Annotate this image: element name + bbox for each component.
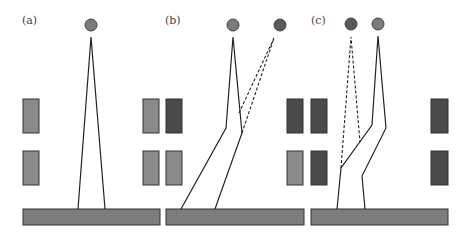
source-circle-icon-c-0	[345, 18, 357, 30]
source-circle-icon-c-1	[372, 18, 384, 30]
building-block-c-4	[431, 99, 448, 133]
building-block-a-1	[23, 151, 39, 185]
dashed-signal-path-b	[239, 38, 274, 133]
building-block-b-2	[143, 151, 159, 185]
panel-label-a: (a)	[22, 14, 37, 27]
building-block-c-5	[431, 151, 448, 185]
building-block-c-1	[311, 99, 327, 133]
building-block-a-0	[23, 99, 39, 133]
building-block-c-2	[287, 151, 303, 185]
ground-layer	[23, 209, 448, 225]
signal-paths-layer	[78, 36, 386, 209]
panel-label-c: (c)	[311, 14, 326, 27]
building-block-b-0	[143, 99, 159, 133]
diagram-canvas: (a)(b)(c)	[0, 0, 465, 235]
panel-label-b: (b)	[165, 14, 181, 27]
building-block-b-3	[166, 151, 182, 185]
ground-bar-c	[311, 209, 448, 225]
building-block-c-0	[287, 99, 303, 133]
source-circle-icon-a-0	[85, 19, 97, 31]
source-circles-layer	[85, 18, 384, 31]
source-circle-icon-b-0	[227, 19, 239, 31]
ground-bar-a	[23, 209, 160, 225]
source-circle-icon-b-1	[274, 19, 286, 31]
building-block-b-1	[166, 99, 182, 133]
solid-signal-path-b	[181, 37, 242, 209]
dashed-signal-path-c	[341, 37, 360, 168]
ground-bar-b	[166, 209, 304, 225]
building-block-c-3	[311, 151, 327, 185]
solid-signal-path-a	[78, 37, 105, 209]
